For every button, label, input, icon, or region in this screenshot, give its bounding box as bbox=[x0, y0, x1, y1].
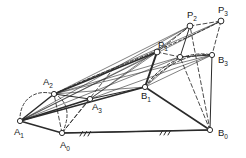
node-b1 bbox=[142, 84, 147, 89]
label-a0-subscript: 0 bbox=[66, 145, 70, 152]
label-b3-subscript: 3 bbox=[224, 60, 228, 67]
label-b0: B0 bbox=[218, 127, 228, 140]
label-p1: P1 bbox=[158, 39, 168, 52]
dashed-p3-b3 bbox=[212, 21, 221, 55]
label-b3: B3 bbox=[218, 54, 228, 67]
label-a2-subscript: 2 bbox=[49, 82, 53, 89]
label-b0-subscript: 0 bbox=[224, 133, 228, 140]
thin-line-group bbox=[20, 21, 221, 121]
dashed-b0-p2 bbox=[190, 26, 210, 130]
node-p2 bbox=[187, 23, 193, 29]
label-p3: P3 bbox=[218, 4, 228, 17]
linkage-svg: A0A1A2A3B0B1B3P1P2P3 bbox=[0, 0, 246, 158]
label-b1: B1 bbox=[141, 90, 151, 103]
node-p3 bbox=[218, 18, 224, 24]
label-a3-subscript: 3 bbox=[98, 107, 102, 114]
link-b3-b0 bbox=[210, 55, 212, 130]
label-a2: A2 bbox=[43, 76, 53, 89]
node-a2 bbox=[51, 91, 56, 96]
node-b0 bbox=[207, 127, 212, 132]
link-b1-b0 bbox=[145, 87, 210, 130]
label-a1: A1 bbox=[14, 126, 24, 139]
arc-a2-a0-lower bbox=[54, 94, 67, 133]
node-a0 bbox=[59, 130, 64, 135]
link-a0-b0-frame bbox=[62, 130, 210, 133]
node-b2 bbox=[177, 54, 182, 59]
label-group: A0A1A2A3B0B1B3P1P2P3 bbox=[14, 4, 228, 152]
link-a1-a0 bbox=[20, 121, 62, 133]
dashed-p1-b2 bbox=[157, 52, 180, 57]
label-a1-subscript: 1 bbox=[20, 132, 24, 139]
node-a1 bbox=[17, 118, 22, 123]
dashed-line-group bbox=[54, 21, 221, 133]
sightline-a1-p1 bbox=[20, 52, 157, 121]
label-p3-subscript: 3 bbox=[224, 10, 228, 17]
label-b1-subscript: 1 bbox=[147, 96, 151, 103]
node-b3 bbox=[209, 52, 214, 57]
label-a0: A0 bbox=[60, 139, 70, 152]
linkage-figure: A0A1A2A3B0B1B3P1P2P3 bbox=[0, 0, 246, 158]
label-p1-subscript: 1 bbox=[164, 45, 168, 52]
label-p2: P2 bbox=[187, 9, 197, 22]
label-p2-subscript: 2 bbox=[193, 15, 197, 22]
label-a3: A3 bbox=[92, 101, 102, 114]
